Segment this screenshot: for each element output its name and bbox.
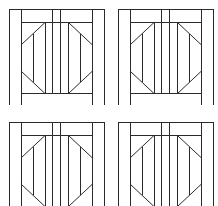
grille-drawing: [118, 9, 214, 105]
grille-drawing: [118, 122, 214, 206]
grille-panel-top-right: [118, 9, 214, 109]
grille-drawing: [9, 122, 105, 206]
grille-panel-top-left: [9, 9, 105, 109]
grille-panel-bottom-right: [118, 122, 214, 206]
outer-frame: [10, 10, 105, 106]
grille-drawing: [9, 9, 105, 105]
grille-panel-bottom-left: [9, 122, 105, 206]
outer-frame: [119, 10, 214, 106]
